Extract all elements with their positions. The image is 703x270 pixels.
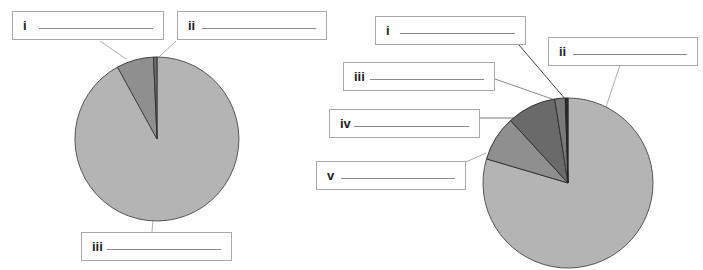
leader-line-left-ii xyxy=(159,41,176,57)
label-numeral: v xyxy=(327,168,334,183)
leader-line-right-iii xyxy=(495,79,555,100)
answer-blank-line[interactable] xyxy=(573,54,687,55)
two-pie-charts-diagram: i ii iii i ii iii iv v xyxy=(0,0,703,270)
label-numeral: ii xyxy=(559,44,566,59)
leader-line-right-v xyxy=(466,153,486,162)
leader-line-right-ii xyxy=(606,65,620,107)
right-label-box-iv[interactable]: iv xyxy=(329,109,480,138)
label-numeral: iii xyxy=(92,239,103,254)
label-numeral: iv xyxy=(340,116,351,131)
left-label-box-ii[interactable]: ii xyxy=(177,11,327,40)
right-label-box-i[interactable]: i xyxy=(375,16,526,45)
answer-blank-line[interactable] xyxy=(400,33,515,34)
answer-blank-line[interactable] xyxy=(39,28,153,29)
leader-line-left-i xyxy=(100,41,126,59)
answer-blank-line[interactable] xyxy=(107,249,221,250)
left-pie-chart xyxy=(75,41,239,232)
answer-blank-line[interactable] xyxy=(354,126,469,127)
answer-blank-line[interactable] xyxy=(370,79,484,80)
right-label-box-ii[interactable]: ii xyxy=(548,37,698,66)
label-numeral: i xyxy=(23,18,27,33)
label-numeral: iii xyxy=(354,69,365,84)
left-label-box-iii[interactable]: iii xyxy=(81,232,232,261)
answer-blank-line[interactable] xyxy=(202,28,316,29)
left-label-box-i[interactable]: i xyxy=(12,11,164,40)
leader-line-left-iii xyxy=(152,220,153,232)
answer-blank-line[interactable] xyxy=(341,178,455,179)
right-label-box-v[interactable]: v xyxy=(316,161,466,190)
right-label-box-iii[interactable]: iii xyxy=(343,62,495,91)
label-numeral: i xyxy=(386,23,390,38)
label-numeral: ii xyxy=(188,18,195,33)
